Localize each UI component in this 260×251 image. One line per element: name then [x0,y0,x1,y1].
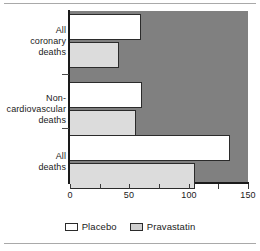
category-label-line: All [0,151,66,162]
x-tick-50 [129,184,130,189]
x-tick-75 [159,184,160,189]
x-tick-125 [218,184,219,189]
category-label-line: Non- [0,93,66,104]
category-label-line: deaths [0,115,66,126]
category-label-2: Alldeaths [0,151,66,173]
bar-pravastatin-1 [70,110,136,136]
x-tick-label-150: 150 [228,190,260,200]
legend-label-placebo: Placebo [82,221,117,232]
legend-entry-placebo: Placebo [65,221,117,232]
bar-pravastatin-2 [70,163,195,189]
category-separator-0 [62,74,69,75]
category-label-line: cardiovascular [0,104,66,115]
x-tick-0 [70,184,71,189]
bar-placebo-2 [70,135,230,161]
x-tick-label-100: 100 [169,190,209,200]
category-label-line: deaths [0,162,66,173]
category-label-1: Non-cardiovasculardeaths [0,93,66,126]
chart-legend: Placebo Pravastatin [0,221,260,232]
legend-entry-pravastatin: Pravastatin [130,221,196,232]
category-label-0: Allcoronarydeaths [0,25,66,58]
category-label-line: All [0,25,66,36]
x-tick-25 [100,184,101,189]
bar-placebo-0 [70,14,141,40]
placebo-swatch-icon [65,223,78,231]
x-tick-100 [189,184,190,189]
category-separator-1 [62,128,69,129]
pravastatin-swatch-icon [130,223,143,231]
chart-figure: AllcoronarydeathsNon-cardiovasculardeath… [0,0,260,251]
bar-placebo-1 [70,82,142,108]
x-tick-150 [248,184,249,189]
bottom-divider-rule [4,243,256,244]
x-tick-label-0: 0 [50,190,90,200]
category-label-line: deaths [0,47,66,58]
category-label-line: coronary [0,36,66,47]
top-divider-rule [4,3,256,4]
x-tick-label-50: 50 [109,190,149,200]
bar-pravastatin-0 [70,42,119,68]
legend-label-pravastatin: Pravastatin [147,221,196,232]
